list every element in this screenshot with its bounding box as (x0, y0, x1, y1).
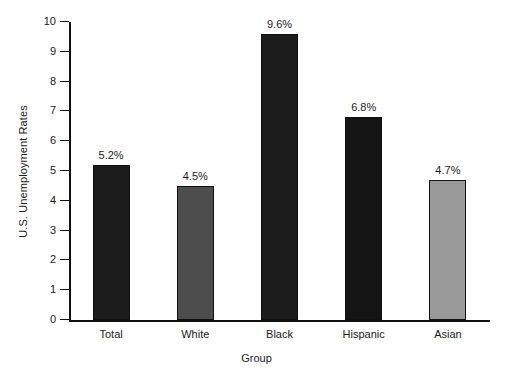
y-axis-tick-mark (60, 21, 69, 22)
y-axis-tick-label: 9 (34, 46, 56, 57)
y-axis-tick-mark (60, 110, 69, 111)
y-axis-tick-mark (60, 230, 69, 231)
bar-value-label: 6.8% (331, 102, 396, 113)
y-axis-tick-label: 7 (34, 105, 56, 116)
y-axis-title: U.S. Unemployment Rates (14, 23, 32, 320)
y-axis-tick-labels: 012345678910 (34, 0, 56, 375)
bar-black (261, 34, 298, 320)
y-axis-tick-mark (60, 319, 69, 320)
y-axis-tick-mark (60, 289, 69, 290)
y-axis-tick-label: 0 (34, 314, 56, 325)
x-axis-tick-label: White (150, 328, 240, 340)
y-axis-tick-label: 5 (34, 165, 56, 176)
x-axis-tick-label: Total (66, 328, 156, 340)
bar-hispanic (345, 117, 382, 320)
plot-area: 5.2%4.5%9.6%6.8%4.7% (69, 22, 490, 320)
y-axis-tick-mark (60, 259, 69, 260)
y-axis-tick-mark (60, 51, 69, 52)
bar-chart-figure: U.S. Unemployment Rates 012345678910 5.2… (0, 0, 513, 375)
y-axis-tick-mark (60, 170, 69, 171)
bar-asian (429, 180, 466, 320)
bar-total (93, 165, 130, 320)
x-axis-line (69, 320, 490, 322)
x-axis-tick-label: Black (235, 328, 325, 340)
y-axis-tick-label: 8 (34, 76, 56, 87)
x-axis-tick-label: Hispanic (319, 328, 409, 340)
y-axis-tick-label: 1 (34, 284, 56, 295)
bar-value-label: 9.6% (247, 19, 312, 30)
y-axis-tick-mark (60, 200, 69, 201)
y-axis-tick-label: 6 (34, 135, 56, 146)
bar-white (177, 186, 214, 320)
x-axis-tick-label: Asian (403, 328, 493, 340)
y-axis-tick-mark (60, 81, 69, 82)
y-axis-tick-label: 3 (34, 225, 56, 236)
y-axis-tick-label: 2 (34, 254, 56, 265)
y-axis-tick-mark (60, 140, 69, 141)
bar-value-label: 4.7% (415, 165, 480, 176)
x-axis-title: Group (0, 352, 513, 364)
bar-value-label: 4.5% (163, 171, 228, 182)
bar-value-label: 5.2% (79, 150, 144, 161)
y-axis-tick-label: 4 (34, 195, 56, 206)
y-axis-tick-label: 10 (34, 16, 56, 27)
